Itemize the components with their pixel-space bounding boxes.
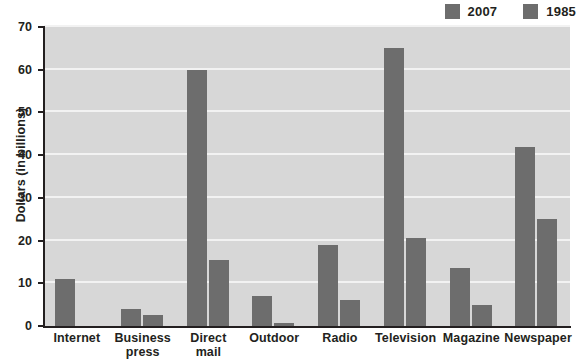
x-axis-label-outdoor: Outdoor bbox=[241, 331, 307, 345]
y-tick-label: 10 bbox=[0, 277, 32, 290]
x-axis-label-line: Internet bbox=[44, 331, 110, 345]
bar-2007-magazine[interactable] bbox=[450, 268, 470, 326]
legend-swatch-1985 bbox=[523, 4, 538, 19]
bars-layer bbox=[44, 27, 570, 326]
bar-group bbox=[176, 27, 242, 326]
bar-2007-business-press[interactable] bbox=[121, 309, 141, 326]
bar-2007-internet[interactable] bbox=[55, 279, 75, 326]
chart-legend: 2007 1985 bbox=[445, 4, 576, 19]
bar-1985-outdoor[interactable] bbox=[274, 323, 294, 326]
bar-1985-radio[interactable] bbox=[340, 300, 360, 326]
y-tick-label: 50 bbox=[0, 106, 32, 119]
y-tick-label: 20 bbox=[0, 235, 32, 248]
x-axis-label-magazine: Magazine bbox=[439, 331, 505, 345]
y-tick-label: 30 bbox=[0, 192, 32, 205]
bar-group bbox=[373, 27, 439, 326]
x-axis-label-line: Business bbox=[110, 331, 176, 345]
bar-2007-outdoor[interactable] bbox=[252, 296, 272, 326]
x-axis-label-line: Radio bbox=[307, 331, 373, 345]
legend-swatch-2007 bbox=[445, 4, 460, 19]
legend-label-2007: 2007 bbox=[468, 5, 498, 18]
bar-group bbox=[307, 27, 373, 326]
bar-group bbox=[504, 27, 570, 326]
y-tick-label: 60 bbox=[0, 64, 32, 77]
bar-group bbox=[439, 27, 505, 326]
x-axis-label-newspaper: Newspaper bbox=[504, 331, 570, 345]
y-tick-label: 70 bbox=[0, 21, 32, 34]
x-axis-line bbox=[43, 326, 571, 328]
x-axis-label-line: Magazine bbox=[439, 331, 505, 345]
bar-chart: 2007 1985 Dollars (in billions) 01020304… bbox=[0, 0, 584, 362]
bar-2007-television[interactable] bbox=[384, 48, 404, 326]
bar-1985-magazine[interactable] bbox=[472, 305, 492, 326]
y-tick-label: 40 bbox=[0, 149, 32, 162]
bar-2007-direct-mail[interactable] bbox=[187, 70, 207, 326]
bar-group bbox=[44, 27, 110, 326]
legend-item-1985[interactable]: 1985 bbox=[523, 4, 576, 19]
y-tick-label: 0 bbox=[0, 320, 32, 333]
x-axis-label-line: mail bbox=[176, 345, 242, 359]
bar-1985-newspaper[interactable] bbox=[537, 219, 557, 326]
x-axis-label-line: Newspaper bbox=[504, 331, 570, 345]
x-axis-label-radio: Radio bbox=[307, 331, 373, 345]
bar-1985-business-press[interactable] bbox=[143, 315, 163, 326]
bar-group bbox=[241, 27, 307, 326]
bar-group bbox=[110, 27, 176, 326]
bar-2007-newspaper[interactable] bbox=[515, 147, 535, 326]
x-axis-label-line: Television bbox=[373, 331, 439, 345]
x-axis-label-line: press bbox=[110, 345, 176, 359]
x-axis-label-business-press: Businesspress bbox=[110, 331, 176, 359]
x-axis-label-line: Outdoor bbox=[241, 331, 307, 345]
bar-1985-television[interactable] bbox=[406, 238, 426, 326]
x-axis-label-line: Direct bbox=[176, 331, 242, 345]
bar-2007-radio[interactable] bbox=[318, 245, 338, 326]
x-axis-label-direct-mail: Directmail bbox=[176, 331, 242, 359]
x-axis-label-internet: Internet bbox=[44, 331, 110, 345]
x-axis-labels: InternetBusinesspressDirectmailOutdoorRa… bbox=[44, 331, 570, 362]
legend-item-2007[interactable]: 2007 bbox=[445, 4, 498, 19]
x-axis-label-television: Television bbox=[373, 331, 439, 345]
bar-1985-direct-mail[interactable] bbox=[209, 260, 229, 326]
legend-label-1985: 1985 bbox=[546, 5, 576, 18]
